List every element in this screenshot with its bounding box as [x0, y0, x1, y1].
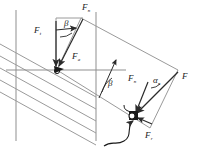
label-force-normal-right: Fn [128, 74, 136, 83]
label-force-axial: Fa [72, 52, 80, 61]
label-force-tangential: Ft [34, 26, 41, 35]
leader-curve [104, 121, 133, 146]
vector-Fn-top [56, 28, 76, 30]
label-angle-beta-mid: β [108, 79, 112, 88]
helix-lines [0, 44, 96, 145]
vector-Fr [138, 118, 152, 124]
force-diagram-svg [0, 0, 200, 153]
angle-arc-beta-top [60, 33, 72, 37]
helix-line-4 [0, 80, 96, 133]
figure-canvas: Fn Ft Fa Fn F Fr β β αn [0, 0, 200, 153]
label-force-normal-top: Fn [82, 3, 90, 12]
helix-line-2 [0, 56, 96, 109]
label-force-resultant: F [182, 72, 188, 81]
helix-line-5 [0, 92, 96, 145]
helix-line-3 [0, 68, 96, 121]
label-angle-alpha-n: αn [153, 76, 160, 85]
contact-point-right [129, 113, 135, 119]
label-angle-beta-top: β [64, 19, 68, 28]
label-force-radial: Fr [145, 131, 152, 140]
